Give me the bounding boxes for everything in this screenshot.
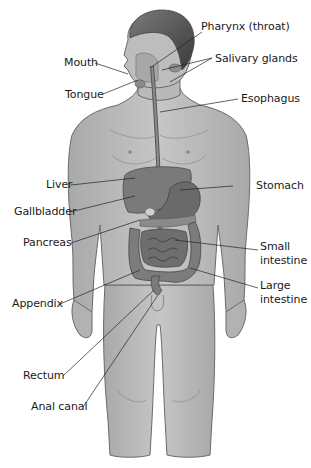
label-small-intestine-line2: intestine bbox=[260, 254, 307, 268]
label-esophagus: Esophagus bbox=[241, 92, 300, 106]
small-intestine-organ bbox=[141, 229, 188, 267]
body-illustration bbox=[0, 0, 311, 468]
label-large-intestine: Large intestine bbox=[260, 279, 307, 307]
label-small-intestine: Small intestine bbox=[260, 240, 307, 268]
label-small-intestine-line1: Small bbox=[260, 240, 307, 254]
label-rectum: Rectum bbox=[23, 369, 64, 383]
label-large-intestine-line2: intestine bbox=[260, 293, 307, 307]
label-appendix: Appendix bbox=[12, 297, 63, 311]
groin-outline bbox=[151, 295, 164, 311]
label-stomach: Stomach bbox=[256, 179, 304, 193]
label-large-intestine-line1: Large bbox=[260, 279, 307, 293]
label-tongue: Tongue bbox=[65, 88, 104, 102]
label-gallbladder: Gallbladder bbox=[14, 205, 76, 219]
label-pharynx: Pharynx (throat) bbox=[201, 20, 290, 34]
label-liver: Liver bbox=[46, 178, 73, 192]
digestive-system-diagram: Pharynx (throat) Salivary glands Mouth T… bbox=[0, 0, 311, 468]
label-salivary-glands: Salivary glands bbox=[215, 52, 298, 66]
gallbladder-organ bbox=[145, 208, 155, 216]
label-pancreas: Pancreas bbox=[23, 236, 72, 250]
label-mouth: Mouth bbox=[64, 56, 98, 70]
label-anal-canal: Anal canal bbox=[31, 400, 87, 414]
